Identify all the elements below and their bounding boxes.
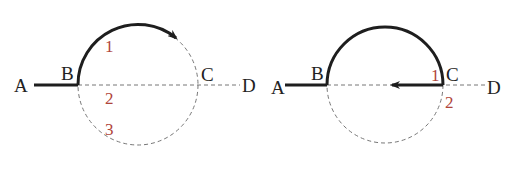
right-region-1: 1 <box>431 66 440 85</box>
left-diagram: A B C D 1 2 3 <box>14 24 256 145</box>
left-region-2: 2 <box>105 89 114 108</box>
left-label-d: D <box>242 75 256 96</box>
right-upper-semicircle-path <box>327 27 443 85</box>
right-label-c: C <box>446 64 459 85</box>
diagram-canvas: A B C D 1 2 3 A B C D 1 2 <box>0 0 513 172</box>
right-label-a: A <box>271 77 285 98</box>
left-label-b: B <box>61 63 74 84</box>
right-region-2: 2 <box>445 93 454 112</box>
left-label-c: C <box>201 64 214 85</box>
right-label-b: B <box>311 63 324 84</box>
left-label-a: A <box>14 75 28 96</box>
left-region-1: 1 <box>105 37 114 56</box>
right-diagram: A B C D 1 2 <box>271 27 501 143</box>
left-region-3: 3 <box>105 120 114 139</box>
left-arc-path-arrow <box>78 24 176 85</box>
right-label-d: D <box>487 77 501 98</box>
